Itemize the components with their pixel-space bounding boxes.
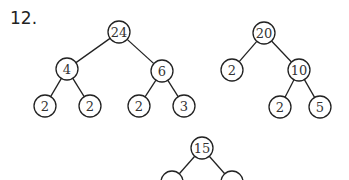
tree-edge [285, 80, 294, 97]
tree-edge [304, 80, 314, 98]
tree-node: 4 [56, 58, 78, 80]
tree-node: 2 [221, 59, 243, 81]
node-value: 10 [291, 63, 308, 78]
tree-edge [168, 80, 178, 96]
node-value: 4 [63, 62, 71, 77]
tree-node: 5 [309, 96, 331, 118]
node-value: 6 [158, 64, 166, 79]
tree-edge [209, 156, 224, 174]
tree-edge [51, 78, 62, 96]
tree-node: 2 [34, 95, 56, 117]
node-value: 2 [276, 100, 284, 115]
tree-edge [73, 78, 84, 96]
tree-24: 24462223 [34, 21, 195, 117]
node-value: 5 [316, 100, 324, 115]
tree-edge [127, 39, 154, 63]
tree-node: 2 [79, 95, 101, 117]
node-value: 2 [41, 99, 49, 114]
tree-node: 10 [288, 59, 310, 81]
tree-edge [76, 38, 110, 62]
node-value: 15 [194, 141, 211, 156]
tree-node: 15 [191, 137, 213, 159]
tree-node: 20 [253, 22, 275, 44]
tree-node: 6 [151, 60, 173, 82]
tree-edge [239, 41, 257, 61]
tree-edge [179, 156, 194, 174]
tree-node: 24 [108, 21, 130, 43]
node-value: 24 [111, 25, 128, 40]
tree-node: 3 [173, 95, 195, 117]
tree-node: 2 [269, 96, 291, 118]
node-value: 2 [228, 63, 236, 78]
tree-20: 2021025 [221, 22, 331, 118]
node-value: 20 [256, 26, 273, 41]
tree-edge [272, 41, 292, 62]
factor-trees-diagram: 24462223202102515 [0, 0, 349, 180]
node-value: 2 [86, 99, 94, 114]
node-value: 3 [180, 99, 188, 114]
node-value: 2 [135, 99, 143, 114]
tree-edge [145, 80, 156, 97]
tree-node: 2 [128, 95, 150, 117]
tree-15: 15 [161, 137, 243, 180]
